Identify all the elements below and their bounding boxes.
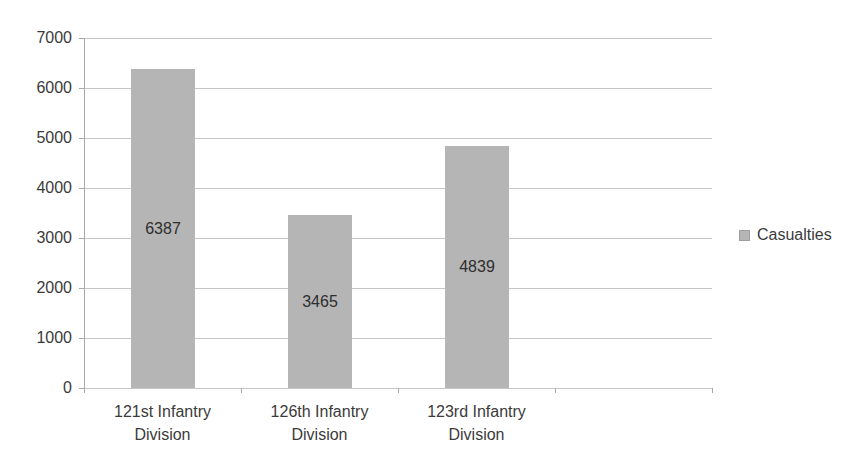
bar-value-label: 4839 — [459, 258, 495, 276]
y-axis-label-3000: 3000 — [6, 230, 72, 246]
bar-value-label: 6387 — [145, 220, 181, 238]
y-axis-label-4000: 4000 — [6, 180, 72, 196]
y-axis-label-2000: 2000 — [6, 280, 72, 296]
x-tick-1 — [241, 388, 242, 393]
bar-value-label: 3465 — [302, 293, 338, 311]
bar-3: 4839 — [445, 146, 509, 388]
legend-marker-square-icon — [739, 230, 750, 241]
legend-label: Casualties — [757, 226, 832, 244]
x-tick-3 — [555, 388, 556, 393]
y-axis-label-0: 0 — [6, 380, 72, 396]
y-axis-label-6000: 6000 — [6, 80, 72, 96]
bar-chart: 6387121st Infantry Division3465126th Inf… — [0, 0, 865, 472]
x-tick-2 — [398, 388, 399, 393]
y-axis-line — [84, 38, 85, 389]
y-axis-label-5000: 5000 — [6, 130, 72, 146]
legend: Casualties — [739, 226, 832, 244]
bar-2: 3465 — [288, 215, 352, 388]
plot-area: 6387121st Infantry Division3465126th Inf… — [84, 38, 712, 388]
x-tick-4 — [712, 388, 713, 393]
x-axis-label-1: 121st Infantry Division — [84, 400, 241, 446]
y-axis-label-7000: 7000 — [6, 30, 72, 46]
bar-1: 6387 — [131, 69, 195, 388]
x-axis-label-2: 126th Infantry Division — [241, 400, 398, 446]
y-axis-label-1000: 1000 — [6, 330, 72, 346]
x-axis-label-3: 123rd Infantry Division — [398, 400, 555, 446]
gridline-y-7000 — [84, 38, 712, 39]
